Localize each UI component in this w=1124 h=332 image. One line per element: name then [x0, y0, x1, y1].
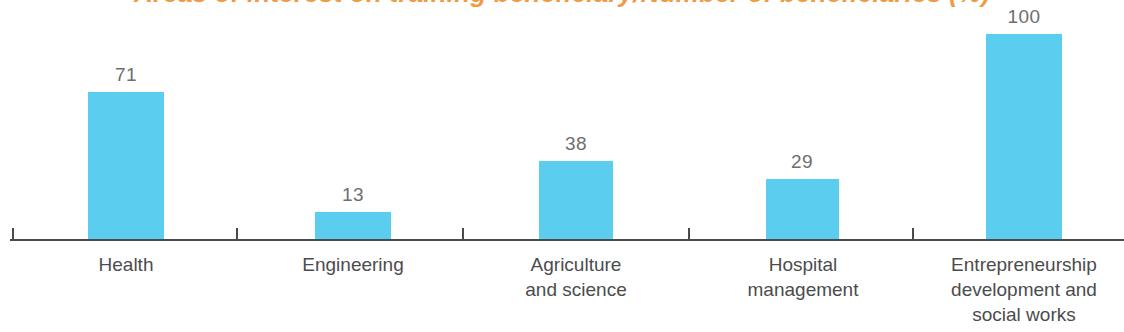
x-axis-tick: [236, 228, 238, 239]
bar-value-engineering: 13: [303, 184, 403, 206]
bar-value-hospital-management: 29: [752, 151, 852, 173]
bar-hospital-management: [766, 179, 839, 239]
bar-entrepreneurship-development-and-social-works: [986, 34, 1062, 239]
x-axis-tick: [12, 228, 14, 239]
x-axis-line: [10, 239, 1124, 241]
bar-value-entrepreneurship-development-and-social-works: 100: [974, 6, 1074, 28]
bar-engineering: [315, 212, 391, 239]
bar-chart-plot-area: 71 13 38 29 100 Health Engineering Agric…: [0, 0, 1124, 332]
x-axis-label-health: Health: [36, 252, 216, 277]
x-axis-tick: [688, 228, 690, 239]
bar-value-health: 71: [76, 64, 176, 86]
bar-health: [88, 92, 164, 239]
x-axis-label-hospital-management: Hospital management: [713, 252, 893, 302]
x-axis-label-agriculture-and-science: Agriculture and science: [486, 252, 666, 302]
x-axis-tick: [912, 228, 914, 239]
bar-value-agriculture-and-science: 38: [526, 133, 626, 155]
chart-page: Areas of interest on training beneficiar…: [0, 0, 1124, 332]
x-axis-label-engineering: Engineering: [263, 252, 443, 277]
x-axis-tick: [462, 228, 464, 239]
x-axis-label-entrepreneurship-development-and-social-works: Entrepreneurship development and social …: [929, 252, 1119, 327]
bar-agriculture-and-science: [539, 161, 613, 239]
